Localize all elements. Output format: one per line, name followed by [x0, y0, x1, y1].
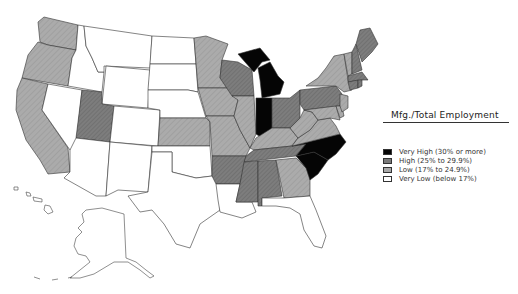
legend-item-low: Low (17% to 24.9%) — [383, 165, 513, 174]
alaska-islands — [34, 277, 72, 280]
state-north-dakota — [150, 36, 196, 64]
map-legend: Mfg./Total Employment Very High (30% or … — [383, 110, 513, 183]
legend-label: High (25% to 29.9%) — [399, 157, 472, 165]
state-new-mexico — [106, 142, 152, 196]
state-alaska — [70, 208, 154, 278]
legend-item-high: High (25% to 29.9%) — [383, 156, 513, 165]
legend-item-very-high: Very High (30% or more) — [383, 147, 513, 156]
legend-swatch-very-low — [383, 176, 392, 182]
state-hawaii — [14, 187, 53, 214]
legend-item-very-low: Very Low (below 17%) — [383, 174, 513, 183]
state-oregon — [22, 42, 76, 86]
state-colorado — [110, 106, 160, 146]
state-florida — [262, 196, 326, 248]
state-rhode-island — [358, 80, 362, 88]
state-maine — [356, 28, 378, 62]
state-kansas — [158, 118, 210, 146]
state-south-dakota — [148, 64, 198, 92]
legend-label: Very High (30% or more) — [399, 148, 486, 156]
legend-swatch-high — [383, 158, 392, 164]
state-connecticut — [348, 80, 358, 90]
legend-label: Very Low (below 17%) — [399, 175, 477, 183]
legend-swatch-very-high — [383, 149, 392, 155]
legend-label: Low (17% to 24.9%) — [399, 166, 470, 174]
legend-swatch-low — [383, 167, 392, 173]
state-wyoming — [102, 66, 150, 108]
legend-title: Mfg./Total Employment — [383, 110, 509, 123]
legend-list: Very High (30% or more) High (25% to 29.… — [383, 147, 513, 183]
state-new-jersey — [340, 94, 348, 112]
